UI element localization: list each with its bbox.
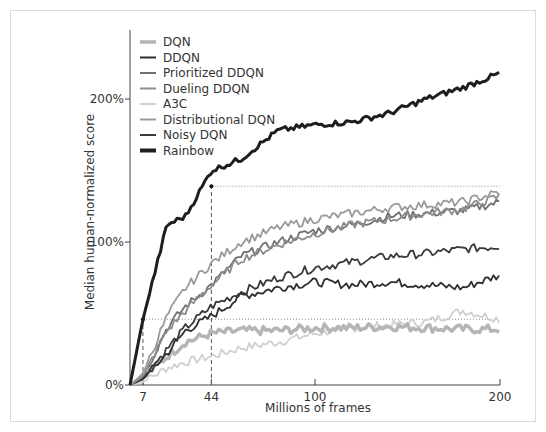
annotations (141, 184, 500, 385)
legend-label: Dueling DDQN (163, 82, 250, 96)
legend-label: Noisy DQN (163, 128, 227, 142)
series-line-dqn (130, 324, 499, 385)
series-line-prioritized-ddqn (130, 200, 499, 385)
y-axis-label: Median human-normalized score (83, 114, 97, 310)
axes: 0%100%200%744100200 (90, 30, 512, 404)
x-tick-label: 44 (204, 390, 219, 404)
y-tick-label: 200% (90, 92, 124, 106)
legend-label: DDQN (163, 51, 200, 65)
x-tick-label: 7 (139, 390, 147, 404)
legend-label: Distributional DQN (163, 113, 275, 127)
reference-point (209, 184, 213, 188)
legend: DQNDDQNPrioritized DDQNDueling DDQNA3CDi… (140, 35, 275, 158)
x-axis-label: Millions of frames (265, 401, 371, 415)
line-chart: 0%100%200%744100200 DQNDDQNPrioritized D… (0, 0, 546, 432)
legend-label: Rainbow (163, 144, 214, 158)
legend-label: A3C (163, 97, 187, 111)
y-tick-label: 0% (105, 378, 124, 392)
legend-label: Prioritized DDQN (163, 66, 264, 80)
series-line-distributional-dqn (130, 191, 499, 385)
legend-label: DQN (163, 35, 191, 49)
x-tick-label: 200 (489, 390, 512, 404)
